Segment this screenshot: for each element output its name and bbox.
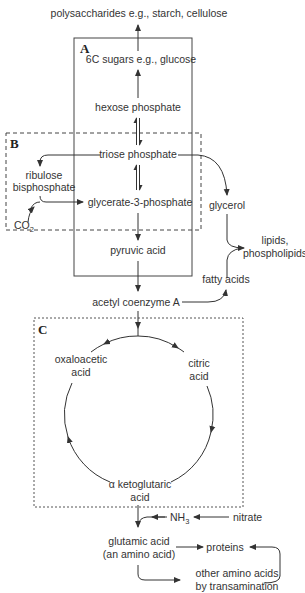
region-b-label: B [10, 136, 19, 151]
arrow-nh3-join [139, 517, 165, 524]
node-6c-sugars: 6C sugars e.g., glucose [86, 53, 196, 65]
node-lipids: lipids, [262, 234, 289, 246]
node-oxaloacetic: oxaloacetic [55, 353, 108, 365]
node-nitrate: nitrate [233, 511, 262, 523]
node-other-amino: other amino acids [196, 567, 279, 579]
node-hexose-phosphate: hexose phosphate [95, 101, 181, 113]
node-fatty-acids: fatty acids [202, 273, 249, 285]
arrow-ribulose-co2-to-glycerate [40, 196, 83, 202]
arrow-acetyl-to-fatty-acids [182, 290, 226, 302]
node-ribulose: ribulose [26, 169, 63, 181]
node-phospholipids-label: phospholipids [243, 247, 305, 259]
node-nh3: NH3 [170, 511, 189, 526]
node-ketoglutaric-acid: acid [130, 491, 149, 503]
node-citric-acid: acid [189, 370, 208, 382]
node-citric: citric [188, 357, 210, 369]
arrow-triose-to-glycerol [178, 155, 227, 195]
cycle-arc-right-lower [171, 432, 211, 482]
node-polysaccharides: polysaccharides e.g., starch, cellulose [51, 7, 228, 19]
node-proteins: proteins [206, 541, 243, 553]
node-glutamic-amino: (an amino acid) [103, 548, 175, 560]
region-c-label: C [38, 322, 47, 337]
node-acetyl-coa: acetyl coenzyme A [92, 296, 180, 308]
node-glycerate-3-phosphate: glycerate-3-phosphate [88, 196, 193, 208]
node-ketoglutaric: α ketoglutaric [109, 478, 172, 490]
arrow-triose-to-ribulose [40, 155, 100, 166]
cycle-arc-citric-to-ketoglutaric [207, 386, 213, 432]
node-glutamic-acid: glutamic acid [108, 535, 169, 547]
cycle-arc-ketoglutaric-to-oxaloacetic [68, 437, 110, 482]
node-pyruvic-acid: pyruvic acid [110, 244, 166, 256]
cycle-arc-top-left [104, 336, 138, 344]
node-oxaloacetic-acid: acid [71, 366, 90, 378]
arrow-glycerol-to-lipids [227, 214, 244, 248]
co2-text: CO [14, 219, 30, 231]
node-co2: CO2 [14, 219, 34, 234]
cycle-arc-oxaloacetic-to-top [91, 344, 104, 352]
node-bisphosphate: bisphosphate [13, 181, 76, 193]
cycle-arc-top-right [138, 336, 178, 348]
node-triose-phosphate: triose phosphate [99, 148, 177, 160]
node-transamination: by transamination [196, 580, 279, 592]
arrow-glutamic-to-other-amino [138, 565, 180, 580]
metabolic-pathway-diagram: A B C polysaccharides e.g., starch, cell… [0, 0, 305, 593]
nh3-subscript: 3 [185, 517, 189, 526]
co2-subscript: 2 [30, 225, 34, 234]
nh3-text: NH [170, 511, 185, 523]
cycle-arc-left-upper [65, 383, 72, 437]
node-glycerol: glycerol [209, 199, 245, 211]
cycle-arc-top-right-ext [178, 348, 184, 352]
